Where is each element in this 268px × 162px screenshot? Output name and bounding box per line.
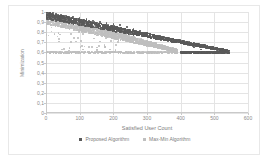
data-point bbox=[74, 52, 76, 54]
x-axis-tick-label: 600 bbox=[244, 116, 252, 121]
data-point bbox=[55, 13, 57, 15]
y-axis-tick-label: 0,9 bbox=[37, 20, 44, 25]
x-axis-tick-label: 500 bbox=[210, 116, 218, 121]
data-point bbox=[133, 39, 135, 41]
data-point bbox=[104, 35, 106, 37]
data-point bbox=[96, 32, 98, 34]
data-point bbox=[190, 52, 192, 54]
data-point bbox=[80, 46, 82, 48]
data-point bbox=[92, 26, 94, 28]
data-point bbox=[46, 34, 47, 36]
data-point bbox=[183, 43, 185, 45]
data-point bbox=[68, 50, 70, 52]
data-point bbox=[115, 44, 117, 46]
data-point bbox=[81, 24, 83, 26]
data-point bbox=[84, 20, 86, 22]
data-point bbox=[178, 39, 180, 41]
data-point bbox=[84, 32, 86, 34]
data-point bbox=[63, 48, 65, 50]
data-point bbox=[104, 32, 106, 34]
data-point bbox=[113, 35, 115, 37]
data-point bbox=[77, 37, 79, 39]
data-point bbox=[139, 30, 141, 32]
data-point bbox=[204, 52, 206, 54]
plot-area bbox=[46, 12, 248, 113]
data-point bbox=[154, 52, 156, 54]
y-axis-tick-label: 0,4 bbox=[37, 70, 44, 75]
data-point bbox=[173, 40, 175, 42]
data-point bbox=[133, 52, 135, 54]
data-point bbox=[138, 42, 140, 44]
data-point bbox=[186, 52, 188, 54]
data-point bbox=[162, 45, 164, 47]
data-point bbox=[166, 48, 168, 50]
data-point bbox=[50, 21, 52, 23]
data-point bbox=[81, 45, 83, 47]
chart-legend: Proposed AlgorithmMax-Min Algorithm bbox=[9, 136, 261, 142]
y-axis-tick bbox=[44, 73, 46, 74]
data-point bbox=[110, 40, 112, 42]
data-point bbox=[60, 14, 62, 16]
data-point bbox=[99, 51, 101, 53]
data-point bbox=[57, 25, 59, 27]
data-point bbox=[202, 52, 204, 54]
data-point bbox=[52, 21, 54, 23]
data-point bbox=[211, 48, 213, 50]
data-point bbox=[73, 28, 75, 30]
data-point bbox=[197, 45, 199, 47]
data-point bbox=[187, 45, 189, 47]
gridline-vertical bbox=[248, 12, 249, 113]
x-axis-tick-labels: 0100200300400500600 bbox=[46, 116, 248, 124]
data-point bbox=[58, 38, 60, 40]
data-point bbox=[92, 51, 94, 53]
data-point bbox=[200, 44, 202, 46]
data-point bbox=[87, 24, 89, 26]
data-point bbox=[112, 29, 114, 31]
data-point bbox=[93, 38, 95, 40]
x-axis-tick-label: 300 bbox=[143, 116, 151, 121]
data-point bbox=[117, 34, 119, 36]
data-point bbox=[51, 24, 53, 26]
data-point bbox=[170, 41, 172, 43]
data-point bbox=[224, 52, 226, 54]
x-axis-tick-label: 0 bbox=[45, 116, 48, 121]
data-point bbox=[52, 14, 54, 16]
legend-entry[interactable]: Proposed Algorithm bbox=[79, 136, 129, 142]
legend-entry[interactable]: Max-Min Algorithm bbox=[143, 136, 190, 142]
data-point bbox=[115, 37, 117, 39]
chart-container: Minimization 00,10,20,30,40,50,60,70,80,… bbox=[8, 5, 260, 155]
data-point bbox=[124, 34, 126, 36]
data-point bbox=[163, 48, 165, 50]
data-point bbox=[55, 52, 57, 54]
data-point bbox=[101, 31, 103, 33]
data-point bbox=[220, 52, 222, 54]
data-point bbox=[119, 24, 121, 26]
data-point bbox=[80, 40, 82, 42]
data-point bbox=[98, 45, 100, 47]
data-point bbox=[129, 39, 131, 41]
data-point bbox=[91, 22, 93, 24]
data-point bbox=[85, 25, 87, 27]
data-points-layer bbox=[46, 12, 248, 113]
data-point bbox=[86, 21, 88, 23]
data-point bbox=[86, 18, 88, 20]
data-point bbox=[75, 41, 77, 43]
data-point bbox=[208, 51, 210, 53]
data-point bbox=[59, 34, 61, 36]
data-point bbox=[57, 36, 59, 38]
data-point bbox=[111, 37, 113, 39]
data-point bbox=[190, 42, 192, 44]
data-point bbox=[151, 51, 153, 53]
data-point bbox=[82, 49, 84, 51]
data-point bbox=[47, 23, 49, 25]
data-point bbox=[55, 25, 57, 27]
data-point bbox=[75, 26, 77, 28]
data-point bbox=[150, 37, 152, 39]
data-point bbox=[154, 38, 156, 40]
y-axis-title-label: Minimization bbox=[19, 49, 25, 77]
data-point bbox=[69, 28, 71, 30]
data-point bbox=[109, 31, 111, 33]
data-point bbox=[70, 20, 72, 22]
data-point bbox=[105, 38, 107, 40]
data-point bbox=[97, 34, 99, 36]
